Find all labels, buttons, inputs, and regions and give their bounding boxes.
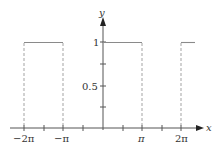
y-axis-label: y [98, 7, 105, 18]
y-tick-label-1: 1 [93, 37, 99, 48]
x-tick-label-negpi: −π [54, 133, 69, 144]
x-tick-label-2pi: 2π [175, 133, 188, 144]
square-wave-chart: y x 1 0.5 −2π −π π 2π [0, 0, 217, 156]
y-axis-arrow-icon [100, 17, 106, 26]
y-tick-label-0.5: 0.5 [82, 81, 98, 92]
x-axis-arrow-icon [196, 125, 204, 131]
x-tick-label-neg2pi: −2π [13, 133, 35, 144]
x-axis-label: x [206, 122, 212, 133]
x-tick-label-pi: π [137, 133, 145, 144]
